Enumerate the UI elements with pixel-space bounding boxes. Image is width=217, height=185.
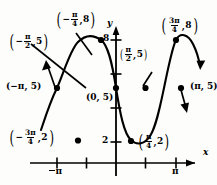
frac-num: π [24, 33, 32, 41]
paren-close: ) [193, 17, 198, 33]
y-value: 2 [41, 133, 47, 142]
comma: , [153, 138, 156, 147]
frac-den: 2 [125, 54, 132, 63]
paren-close: ) [44, 33, 49, 49]
comma: , [133, 51, 136, 60]
pi-glyph: π [56, 166, 63, 176]
label-pi-over-2-5: (π2,5) [119, 46, 148, 63]
paren-close: ) [165, 133, 170, 149]
point-origin-0-5 [113, 85, 119, 91]
frac-num: 3π [24, 129, 37, 137]
x-tick-label-minus-pi: π [49, 167, 62, 176]
label-minus-3pi-over-4-2: (−3π4,2) [8, 129, 55, 147]
x-tick-label-pi: π [172, 167, 179, 176]
frac-num: π [125, 46, 133, 54]
label-3pi-over-4-8: (3π4,8) [160, 17, 199, 35]
paren-close: ) [91, 11, 96, 27]
label-origin-0-5: (0, 5) [86, 93, 113, 102]
frac-den: 4 [71, 19, 78, 28]
frac-num: 3π [168, 17, 181, 25]
paren-open: ( [161, 17, 166, 33]
sinusoid-graph-figure: (−π2,5) (−π4,8) (−π, 5) (0, 5) (−3π4,2) … [0, 0, 217, 185]
comma: , [79, 16, 82, 25]
minus-sign: − [15, 133, 23, 142]
paren-close: ) [49, 129, 54, 145]
y-value: 5 [137, 50, 143, 59]
y-tick-label-2: 2 [102, 136, 108, 145]
paren-close: ) [144, 49, 147, 60]
point-pi-4-2 [128, 138, 134, 144]
comma: , [32, 38, 35, 47]
frac-num: π [71, 11, 79, 19]
paren-open: ( [56, 11, 61, 27]
label-minus-pi-over-2-5: (−π2,5) [8, 33, 50, 51]
minus-sign: − [62, 15, 70, 24]
arrow-pi-5 [181, 90, 190, 113]
leader-pi-2 [143, 72, 152, 86]
minus-bar-icon [49, 170, 55, 171]
comma: , [182, 22, 185, 31]
point-3pi-4-8 [173, 37, 179, 43]
y-value: 8 [185, 21, 191, 30]
y-value: 8 [83, 15, 89, 24]
leader-minus-pi [42, 60, 55, 87]
y-tick-label-8: 8 [103, 34, 109, 43]
frac-den: 4 [145, 141, 152, 150]
frac-num: π [145, 133, 153, 141]
y-value: 2 [157, 137, 163, 146]
paren-open: ( [138, 133, 143, 149]
label-minus-pi-5: (−π, 5) [6, 82, 41, 91]
frac-den: 4 [171, 25, 178, 34]
y-value: 5 [36, 37, 42, 46]
paren-open: ( [9, 129, 14, 145]
label-pi-over-4-2: (π4,2) [137, 133, 171, 151]
point-minus-3pi-4-2 [75, 137, 81, 143]
label-pi-5: (π, 5) [190, 82, 217, 91]
minus-sign: − [15, 37, 23, 46]
frac-den: 2 [24, 41, 31, 50]
paren-open: ( [9, 33, 14, 49]
x-axis-label: x [203, 148, 208, 157]
paren-open: ( [120, 49, 123, 60]
y-axis-label: y [107, 19, 112, 28]
label-minus-pi-over-4-8: (−π4,8) [55, 11, 97, 29]
frac-den: 4 [27, 137, 34, 146]
comma: , [38, 134, 41, 143]
